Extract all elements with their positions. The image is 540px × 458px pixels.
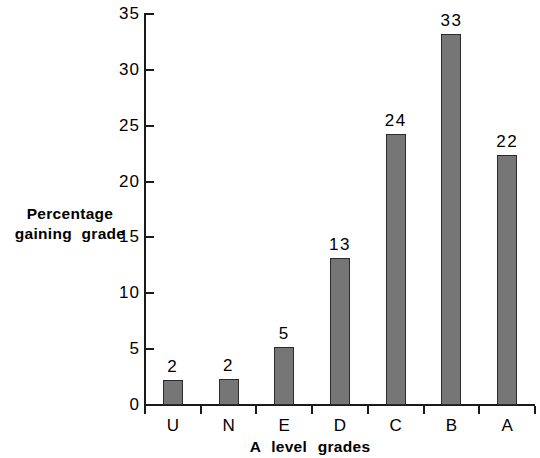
y-tick-label: 0	[106, 396, 140, 413]
y-tick-label-wrap: 15	[0, 237, 140, 238]
y-tick	[146, 292, 154, 294]
x-tick	[367, 406, 369, 414]
y-tick-label: 5	[106, 340, 140, 357]
bar	[219, 379, 239, 405]
y-axis-line	[144, 13, 146, 406]
y-tick-label-wrap: 10	[0, 293, 140, 294]
x-category-label: N	[199, 416, 259, 436]
y-tick-label-wrap: 0	[0, 405, 140, 406]
bar	[497, 155, 517, 405]
y-tick	[146, 404, 154, 406]
bar-value-label: 24	[366, 112, 426, 129]
x-category-label: A	[477, 416, 537, 436]
y-tick-label: 25	[106, 117, 140, 134]
y-tick-label: 10	[106, 284, 140, 301]
bar	[330, 258, 350, 405]
y-tick-label-wrap: 35	[0, 14, 140, 15]
x-tick	[255, 406, 257, 414]
y-axis-title-line1: Percentage	[8, 204, 132, 224]
y-tick	[146, 125, 154, 127]
y-tick	[146, 236, 154, 238]
y-tick-label: 35	[106, 5, 140, 22]
x-tick	[423, 406, 425, 414]
bar-chart: Percentage gaining grade 05101520253035 …	[0, 0, 540, 458]
y-tick-label-wrap: 30	[0, 70, 140, 71]
bar	[441, 34, 461, 405]
x-axis-title: A level grades	[200, 438, 420, 456]
y-tick-label-wrap: 25	[0, 126, 140, 127]
bar	[163, 380, 183, 405]
bar	[386, 134, 406, 405]
x-category-label: C	[366, 416, 426, 436]
x-tick	[200, 406, 202, 414]
y-tick-label: 20	[106, 173, 140, 190]
bar-value-label: 33	[421, 12, 481, 29]
x-tick	[311, 406, 313, 414]
x-tick	[534, 406, 536, 414]
x-category-label: U	[143, 416, 203, 436]
bar	[274, 347, 294, 405]
y-tick	[146, 13, 154, 15]
y-tick-label-wrap: 20	[0, 182, 140, 183]
bar-value-label: 2	[199, 357, 259, 374]
x-category-label: B	[421, 416, 481, 436]
y-tick-label: 15	[106, 228, 140, 245]
bar-value-label: 2	[143, 358, 203, 375]
y-tick	[146, 348, 154, 350]
bar-value-label: 5	[254, 325, 314, 342]
y-tick-label-wrap: 5	[0, 349, 140, 350]
bar-value-label: 22	[477, 133, 537, 150]
x-category-label: D	[310, 416, 370, 436]
x-tick	[144, 406, 146, 414]
bar-value-label: 13	[310, 236, 370, 253]
x-tick	[478, 406, 480, 414]
x-category-label: E	[254, 416, 314, 436]
y-tick	[146, 69, 154, 71]
y-tick	[146, 181, 154, 183]
y-tick-label: 30	[106, 61, 140, 78]
